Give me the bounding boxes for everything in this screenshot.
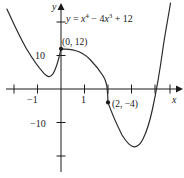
y-axis-label: y [52, 2, 56, 12]
coordinate-plot [0, 0, 184, 178]
graph-figure: y = x4 − 4x3 + 12 y x 10 −10 1 −1 (0, 12… [0, 0, 184, 178]
equation-plus: + [112, 13, 123, 24]
y-tick-label-10: 10 [35, 51, 45, 61]
point-marker-2-neg4 [106, 100, 110, 104]
y-axis-arrow [58, 3, 65, 10]
equation-minus: − [89, 13, 100, 24]
equation-constant: 12 [123, 13, 133, 24]
x-axis-label: x [172, 95, 176, 105]
x-tick-label-1: 1 [81, 95, 86, 105]
x-axis-arrow [176, 86, 183, 93]
y-tick-label-neg10: −10 [30, 119, 46, 129]
point-label-y-intercept: (0, 12) [62, 38, 87, 48]
point-label-inflection: (2, −4) [112, 100, 138, 110]
x-tick-label-neg1: −1 [27, 95, 38, 105]
equation-label: y = x4 − 4x3 + 12 [66, 13, 133, 24]
equation-equals: = [70, 13, 81, 24]
